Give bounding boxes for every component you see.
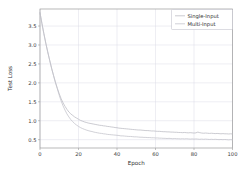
y-tick-label: 3.5: [28, 23, 36, 29]
y-tick-label: 0.5: [28, 137, 36, 143]
legend-label-multi-input: Multi-Input: [188, 21, 216, 28]
x-tick-label: 0: [38, 151, 41, 157]
chart-canvas: 0.51.01.52.02.53.03.5 020406080100 Epoch…: [0, 0, 242, 175]
y-tick-label: 1.0: [28, 118, 36, 124]
y-tick-label: 2.0: [28, 80, 36, 86]
legend-label-single-input: Single-Input: [188, 13, 219, 20]
x-tick-label: 20: [75, 151, 82, 157]
plot-frame: [40, 9, 233, 148]
x-tick-label: 80: [191, 151, 198, 157]
chart-legend: Single-InputMulti-Input: [172, 10, 233, 30]
y-tick-label: 1.5: [28, 99, 36, 105]
y-axis-ticks: 0.51.01.52.02.53.03.5: [28, 23, 40, 143]
gridlines: [40, 9, 233, 148]
y-axis-title: Test Loss: [7, 66, 13, 92]
x-axis-ticks: 020406080100: [38, 148, 237, 157]
y-tick-label: 3.0: [28, 42, 36, 48]
x-tick-label: 60: [152, 151, 159, 157]
x-axis-title: Epoch: [128, 160, 146, 167]
chart-figure: 0.51.01.52.02.53.03.5 020406080100 Epoch…: [0, 0, 242, 175]
x-tick-label: 100: [228, 151, 238, 157]
y-tick-label: 2.5: [28, 61, 36, 67]
x-tick-label: 40: [114, 151, 121, 157]
series-line-single-input: [40, 13, 233, 134]
